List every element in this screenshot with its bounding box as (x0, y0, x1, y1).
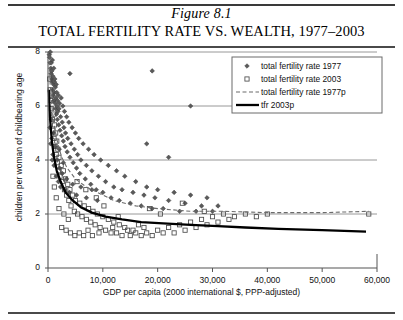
bottom-divider-rule (8, 312, 395, 314)
x-tick-label: 20,000 (135, 275, 181, 285)
legend-item-label: total fertility rate 1977p (261, 87, 346, 97)
x-tick-label: 0 (25, 275, 71, 285)
legend-item-label: total fertility rate 2003 (261, 74, 341, 84)
x-axis-label: GDP per capita (2000 international $, PP… (0, 287, 403, 297)
y-tick-label: 2 (24, 208, 40, 218)
legend-item-label: tfr 2003p (261, 100, 294, 110)
series-total-fertility-rate-1977 (47, 50, 220, 214)
scatter-plot-svg: total fertility rate 1977total fertility… (0, 46, 403, 312)
legend: total fertility rate 1977total fertility… (232, 57, 382, 113)
figure-number: Figure 8.1 (0, 6, 403, 22)
y-axis-label: children per woman of childbearing age (14, 72, 24, 222)
figure-title: TOTAL FERTILITY RATE VS. WEALTH, 1977–20… (0, 23, 403, 40)
chart-area: total fertility rate 1977total fertility… (0, 46, 403, 312)
x-tick-label: 60,000 (354, 275, 400, 285)
y-tick-label: 8 (24, 46, 40, 56)
x-tick-label: 40,000 (244, 275, 290, 285)
legend-item-label: total fertility rate 1977 (261, 61, 341, 71)
x-tick-label: 10,000 (80, 275, 126, 285)
y-tick-label: 6 (24, 100, 40, 110)
x-tick-label: 30,000 (190, 275, 236, 285)
y-tick-label: 0 (24, 262, 40, 272)
x-tick-label: 50,000 (299, 275, 345, 285)
y-tick-label: 4 (24, 154, 40, 164)
